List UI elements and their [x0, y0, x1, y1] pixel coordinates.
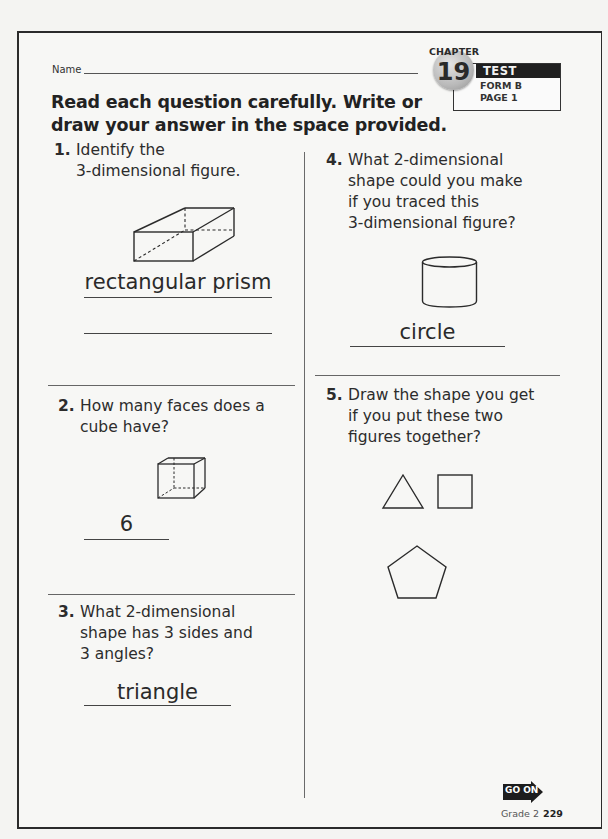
page-number: 229 — [543, 808, 563, 819]
page-footer: Grade 2229 — [501, 808, 563, 819]
pentagon-answer-drawing — [0, 0, 608, 839]
go-on-label: GO ON — [505, 785, 538, 795]
chapter-label: CHAPTER — [429, 46, 479, 57]
grade-label: Grade 2 — [501, 808, 539, 819]
